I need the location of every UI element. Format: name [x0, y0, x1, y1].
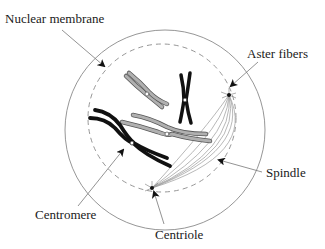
- label-centriole: Centriole: [155, 228, 203, 241]
- label-nuclear-membrane: Nuclear membrane: [5, 12, 104, 25]
- leader-lines: [62, 30, 262, 224]
- aster: [221, 88, 236, 98]
- centromere-dot: [130, 141, 134, 145]
- spindle-arrow: [219, 160, 262, 172]
- chromosome-light-upper: [126, 73, 167, 107]
- spindle-fibers: [152, 95, 235, 188]
- centromere-dot: [183, 98, 187, 102]
- aster-centriole-dot: [227, 93, 231, 97]
- aster-fibers-arrow: [231, 62, 258, 86]
- centromere-dot: [165, 132, 169, 136]
- centriole-arrow: [154, 192, 164, 224]
- label-centromere: Centromere: [35, 208, 96, 221]
- nuclear-membrane-arrow: [62, 30, 104, 66]
- nuclear-membrane: [88, 44, 236, 192]
- chromosome-light-long: [122, 115, 210, 141]
- chromosome-dark-upper: [180, 73, 191, 123]
- centriole-dot: [150, 186, 154, 190]
- chromosome-dark-lower: [90, 110, 170, 166]
- label-spindle: Spindle: [266, 166, 306, 179]
- label-aster-fibers: Aster fibers: [247, 47, 308, 60]
- centromere-dot: [145, 92, 149, 96]
